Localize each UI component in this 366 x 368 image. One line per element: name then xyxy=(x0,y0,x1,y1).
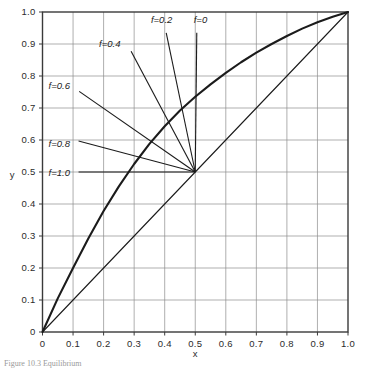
y-tick-label: 0.4 xyxy=(21,198,35,209)
y-tick-label: 0.7 xyxy=(21,102,35,113)
x-tick-label: 0.1 xyxy=(66,338,80,349)
y-axis-title: y xyxy=(10,169,15,180)
curve-label-f08: f=0.8 xyxy=(49,138,71,149)
y-tick-label: 0.6 xyxy=(21,134,35,145)
figure-container: 00.10.20.30.40.50.60.70.80.91.0 00.10.20… xyxy=(0,0,366,368)
curve-label-f04: f=0.4 xyxy=(99,38,120,49)
x-tick-label: 0.9 xyxy=(310,338,324,349)
y-tick-label: 0 xyxy=(30,326,36,337)
equilibrium-diagram: 00.10.20.30.40.50.60.70.80.91.0 00.10.20… xyxy=(0,0,366,368)
annotation-labels-group: f=0f=0.2f=0.4f=0.6f=0.8f=1.0 xyxy=(49,14,208,178)
y-tick-label: 0.2 xyxy=(21,262,35,273)
y-tick-label: 0.5 xyxy=(21,166,35,177)
y-tick-label: 0.1 xyxy=(21,294,35,305)
curve-label-f0: f=0 xyxy=(194,14,208,25)
x-tick-label: 0.6 xyxy=(219,338,233,349)
curve-label-f10: f=1.0 xyxy=(49,167,71,178)
y-axis-tick-labels: 00.10.20.30.40.50.60.70.80.91.0 xyxy=(21,6,35,337)
x-tick-label: 0.3 xyxy=(127,338,141,349)
leader-line-f08 xyxy=(79,141,196,172)
x-tick-label: 0.4 xyxy=(158,338,172,349)
y-tick-label: 1.0 xyxy=(21,6,35,17)
x-tick-label: 0.7 xyxy=(249,338,263,349)
curve-label-f02: f=0.2 xyxy=(151,14,173,25)
annotation-leader-lines xyxy=(79,33,197,172)
curve-label-f06: f=0.6 xyxy=(49,80,71,91)
y-tick-label: 0.3 xyxy=(21,230,35,241)
x-tick-label: 0.2 xyxy=(97,338,111,349)
y-tick-label: 0.9 xyxy=(21,38,35,49)
x-axis-title: x xyxy=(193,348,198,359)
x-axis-tick-labels: 00.10.20.30.40.50.60.70.80.91.0 xyxy=(40,338,355,349)
leader-line-f02 xyxy=(166,33,195,172)
x-tick-label: 1.0 xyxy=(341,338,355,349)
figure-caption: Figure 10.3 Equilibrium xyxy=(4,359,82,368)
x-tick-label: 0.8 xyxy=(280,338,294,349)
x-tick-label: 0 xyxy=(40,338,46,349)
y-tick-label: 0.8 xyxy=(21,70,35,81)
